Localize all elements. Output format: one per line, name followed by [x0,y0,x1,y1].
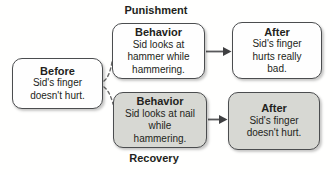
punishment-after-title: After [264,26,290,39]
recovery-after-body: Sid's finger doesn't hurt. [247,115,302,140]
recovery-behavior-box: Behavior Sid looks at nail while hammeri… [113,92,207,148]
before-body: Sid's finger doesn't hurt. [30,77,85,102]
recovery-arrow [208,115,228,124]
punishment-behavior-box: Behavior Sid looks at hammer while hamme… [112,23,205,79]
before-box: Before Sid's finger doesn't hurt. [12,58,103,109]
recovery-after-box: After Sid's finger doesn't hurt. [228,92,320,150]
punishment-after-box: After Sid's finger hurts really bad. [232,22,322,79]
punishment-behavior-title: Behavior [135,26,182,39]
recovery-after-title: After [261,102,287,115]
dashed-connector-recovery [104,87,113,104]
recovery-behavior-body: Sid looks at nail while hammering. [125,108,195,146]
punishment-arrow [206,47,232,56]
punishment-after-body: Sid's finger hurts really bad. [252,38,301,76]
before-title: Before [40,65,75,78]
recovery-behavior-title: Behavior [136,95,183,108]
punishment-label: Punishment [106,4,206,16]
dashed-connector-punishment [104,62,112,81]
punishment-behavior-body: Sid looks at hammer while hammering. [127,39,189,77]
behavior-diagram: Punishment Before Sid's finger doesn't h… [0,0,333,175]
recovery-label: Recovery [104,152,204,164]
